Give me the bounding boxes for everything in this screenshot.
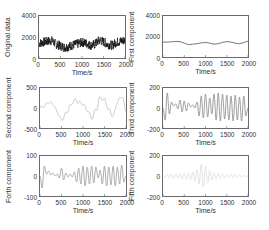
- x-tick-label: 1000: [71, 199, 95, 206]
- line-series: [163, 16, 248, 57]
- y-tick-label: 2000: [138, 33, 160, 40]
- y-axis-label: Third component: [128, 82, 136, 135]
- x-axis-label: Time/s: [53, 207, 113, 215]
- x-tick-label: 0: [150, 131, 174, 138]
- x-axis-label: Time/s: [176, 139, 236, 147]
- y-tick-label: 0: [15, 105, 37, 112]
- x-tick-label: 1500: [92, 61, 116, 68]
- x-tick-label: 500: [48, 61, 72, 68]
- line-series: [40, 88, 126, 128]
- y-axis-label: Fifth component: [128, 151, 136, 201]
- y-tick-label: 500: [15, 84, 37, 91]
- plot-area: [162, 87, 249, 129]
- x-tick-label: 1500: [93, 131, 117, 138]
- line-series: [163, 156, 248, 196]
- line-series: [39, 16, 125, 58]
- y-axis-label: Second component: [5, 78, 13, 138]
- x-axis-label: Time/s: [53, 139, 113, 147]
- x-axis-label: Time/s: [176, 68, 236, 76]
- line-series: [163, 88, 248, 128]
- x-tick-label: 0: [26, 61, 50, 68]
- x-tick-label: 0: [27, 131, 51, 138]
- x-tick-label: 1000: [194, 199, 218, 206]
- plot-area: [162, 15, 249, 58]
- x-tick-label: 0: [150, 199, 174, 206]
- y-tick-label: 0: [138, 173, 160, 180]
- y-tick-label: 100: [15, 152, 37, 159]
- y-tick-label: 0: [138, 105, 160, 112]
- x-axis-label: Time/s: [52, 69, 112, 77]
- x-tick-label: 1000: [194, 131, 218, 138]
- plot-area: [39, 155, 127, 197]
- y-axis-label: First component: [128, 11, 136, 61]
- plot-area: [39, 87, 127, 129]
- plot-area: [162, 155, 249, 197]
- x-tick-label: 500: [172, 199, 196, 206]
- x-tick-label: 1500: [215, 60, 239, 67]
- y-axis-label: Original data: [4, 17, 12, 57]
- x-tick-label: 1500: [93, 199, 117, 206]
- y-tick-label: 200: [138, 152, 160, 159]
- y-tick-label: 2000: [14, 34, 36, 41]
- y-tick-label: 200: [138, 84, 160, 91]
- y-axis-label: Forth component: [5, 150, 13, 203]
- x-tick-label: 2000: [237, 60, 261, 67]
- x-tick-label: 1000: [194, 60, 218, 67]
- x-tick-label: 1000: [70, 61, 94, 68]
- x-tick-label: 1500: [215, 199, 239, 206]
- plot-area: [38, 15, 126, 59]
- x-tick-label: 500: [172, 131, 196, 138]
- x-tick-label: 500: [172, 60, 196, 67]
- x-tick-label: 500: [49, 199, 73, 206]
- x-tick-label: 1000: [71, 131, 95, 138]
- x-tick-label: 0: [27, 199, 51, 206]
- line-series: [40, 156, 126, 196]
- x-tick-label: 1500: [215, 131, 239, 138]
- x-tick-label: 2000: [237, 131, 261, 138]
- x-tick-label: 2000: [114, 61, 138, 68]
- y-tick-label: 4000: [14, 12, 36, 19]
- x-tick-label: 2000: [237, 199, 261, 206]
- x-tick-label: 0: [150, 60, 174, 67]
- y-tick-label: 4000: [138, 12, 160, 19]
- x-tick-label: 500: [49, 131, 73, 138]
- x-axis-label: Time/s: [176, 207, 236, 215]
- y-tick-label: 0: [15, 173, 37, 180]
